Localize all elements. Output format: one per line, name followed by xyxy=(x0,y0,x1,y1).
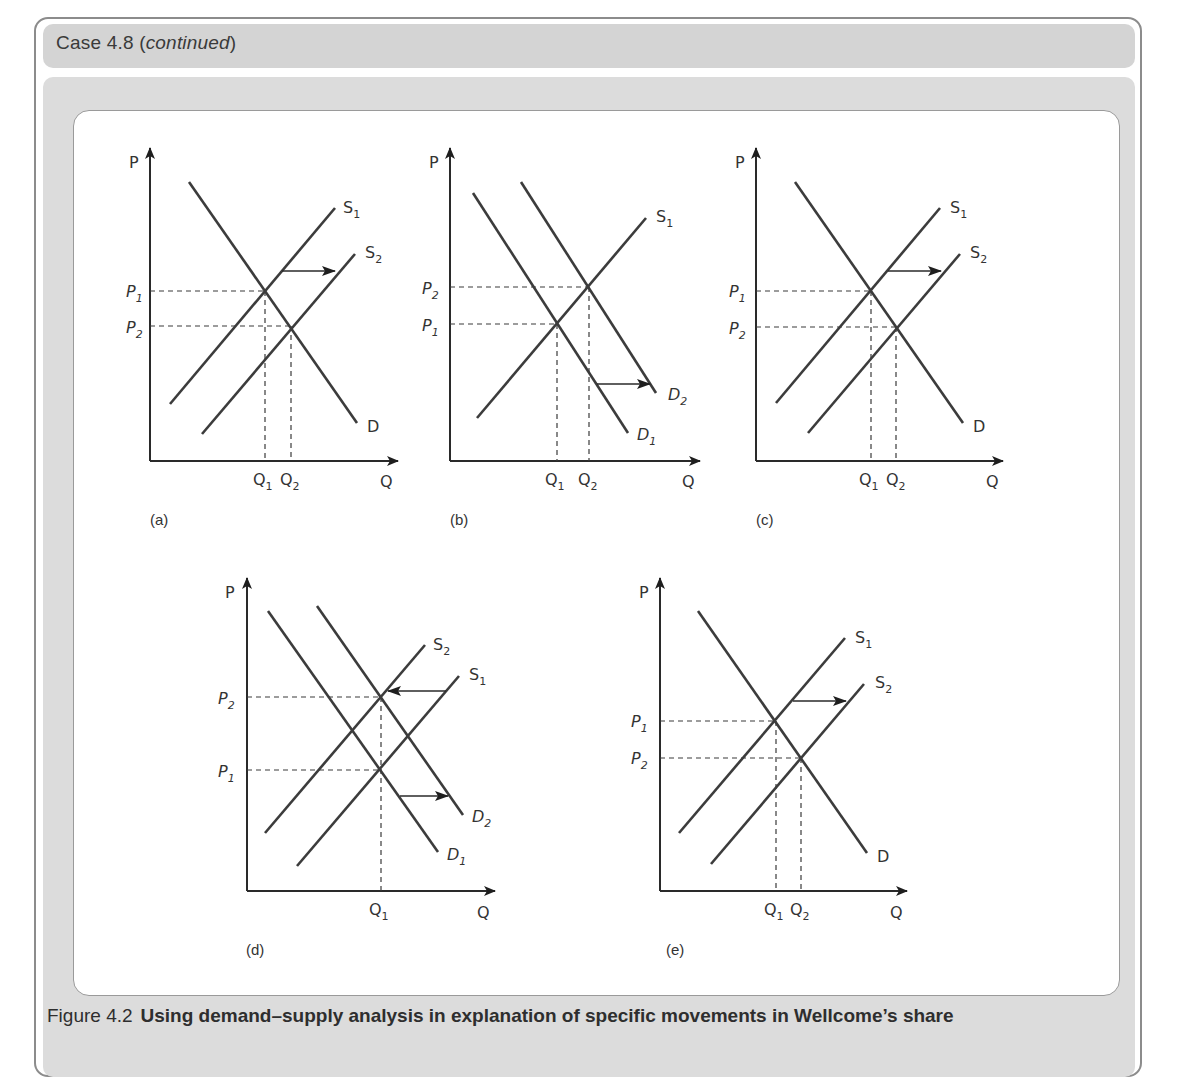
chart-b: P Q P2 P1 Q1 Q2 S1 D2 D1 (b) xyxy=(422,148,700,528)
chart-c: P Q P1 P2 Q1 Q2 S1 S2 D (c) xyxy=(729,148,1003,528)
panel-label-b: (b) xyxy=(450,511,468,528)
label-q2: Q2 xyxy=(280,470,300,493)
label-q1: Q1 xyxy=(764,900,784,923)
label-s2: S2 xyxy=(970,243,987,266)
demand-curve-d xyxy=(698,611,867,853)
label-d: D xyxy=(367,417,379,436)
label-s2: S2 xyxy=(875,673,892,696)
axis-label-p: P xyxy=(429,153,439,172)
axis-label-q: Q xyxy=(682,472,695,491)
label-p2: P2 xyxy=(126,318,143,341)
label-q1: Q1 xyxy=(859,470,879,493)
label-d: D xyxy=(877,847,889,866)
label-p1: P1 xyxy=(218,762,235,785)
axis-label-q: Q xyxy=(477,903,490,922)
label-s2: S2 xyxy=(433,635,450,658)
label-d1: D1 xyxy=(447,845,466,868)
demand-curve-d xyxy=(795,182,963,423)
demand-curve-d xyxy=(189,182,357,423)
label-q2: Q2 xyxy=(578,470,598,493)
label-s1: S1 xyxy=(855,628,872,651)
label-s1: S1 xyxy=(656,207,673,230)
chart-d: P Q P2 P1 Q1 S2 S1 D2 D1 (d) xyxy=(218,578,495,958)
axis-label-q: Q xyxy=(986,472,999,491)
label-q1: Q1 xyxy=(545,470,565,493)
label-q1: Q1 xyxy=(253,470,273,493)
label-d2: D2 xyxy=(668,385,687,408)
figure-caption: Figure 4.2Using demand–supply analysis i… xyxy=(47,1005,954,1027)
panel-label-e: (e) xyxy=(666,941,684,958)
chart-e: P Q P1 P2 Q1 Q2 S1 S2 D (e) xyxy=(631,578,907,958)
panel-label-d: (d) xyxy=(246,941,264,958)
axis-label-q: Q xyxy=(380,472,393,491)
label-d2: D2 xyxy=(472,807,491,830)
label-p1: P1 xyxy=(126,282,143,305)
axis-label-p: P xyxy=(639,583,649,602)
axis-label-p: P xyxy=(129,153,139,172)
chart-a: P Q P1 P2 Q1 Q2 S1 S2 D (a) xyxy=(126,148,398,528)
axis-label-p: P xyxy=(225,583,235,602)
label-s1: S1 xyxy=(950,198,967,221)
supply-curve-s2 xyxy=(808,254,960,433)
figure-number: Figure 4.2 xyxy=(47,1005,133,1026)
figure-caption-text: Using demand–supply analysis in explanat… xyxy=(141,1005,954,1026)
label-p2: P2 xyxy=(729,319,746,342)
label-p2: P2 xyxy=(422,279,439,302)
label-p2: P2 xyxy=(631,749,648,772)
label-s1: S1 xyxy=(469,665,486,688)
label-p2: P2 xyxy=(218,689,235,712)
supply-curve-s2 xyxy=(711,684,864,864)
label-s2: S2 xyxy=(365,243,382,266)
label-q2: Q2 xyxy=(886,470,906,493)
label-d: D xyxy=(973,417,985,436)
supply-curve-s1 xyxy=(477,218,646,418)
axis-label-p: P xyxy=(735,153,745,172)
label-p1: P1 xyxy=(422,316,439,339)
label-d1: D1 xyxy=(637,425,656,448)
label-q2: Q2 xyxy=(790,900,810,923)
label-q1: Q1 xyxy=(369,900,389,923)
axis-label-q: Q xyxy=(890,903,903,922)
label-s1: S1 xyxy=(343,198,360,221)
supply-curve-s2 xyxy=(202,254,355,434)
panel-label-c: (c) xyxy=(756,511,774,528)
supply-curve-s1 xyxy=(297,676,459,866)
label-p1: P1 xyxy=(631,712,648,735)
supply-curve-s2 xyxy=(265,645,425,833)
panel-label-a: (a) xyxy=(150,511,168,528)
label-p1: P1 xyxy=(729,282,746,305)
